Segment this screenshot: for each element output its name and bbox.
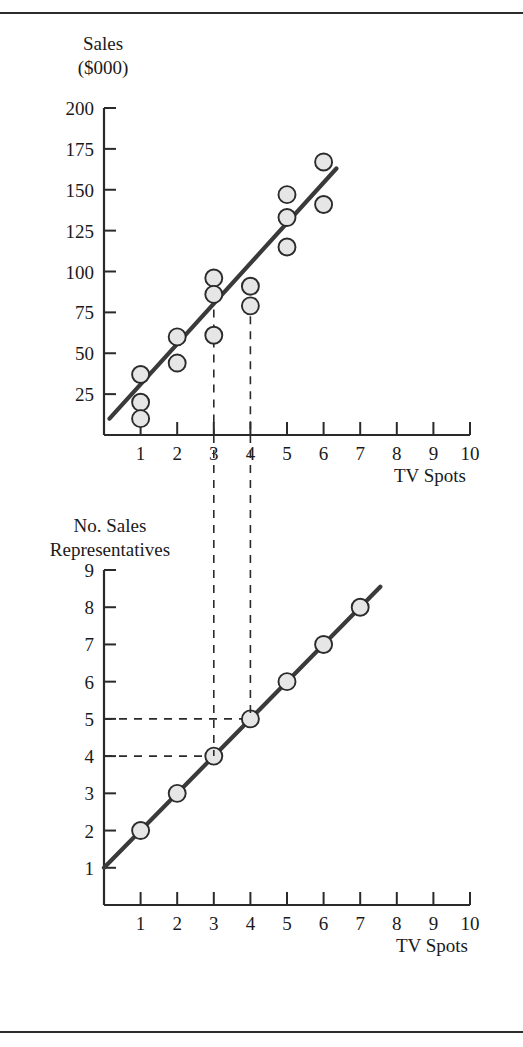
inter-chart-connectors: [0, 0, 523, 1047]
figure-root: Sales ($000) 255075100125150175200 12345…: [0, 0, 523, 1047]
